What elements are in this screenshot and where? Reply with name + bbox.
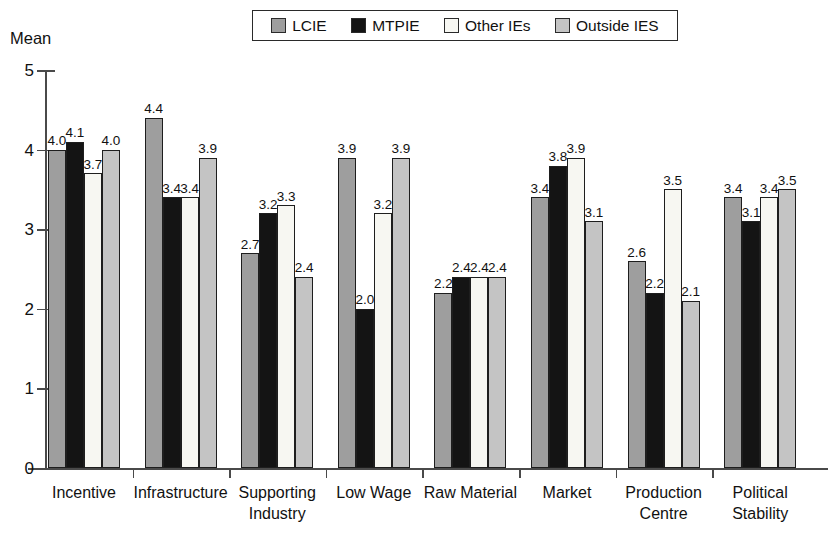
bar-value-label: 2.6 <box>627 246 646 260</box>
bar-value-label: 2.2 <box>645 277 664 291</box>
y-axis-line <box>45 70 47 469</box>
bar-group: 2.22.42.42.4 <box>434 70 506 468</box>
legend-label: MTPIE <box>372 18 419 34</box>
y-axis-tick-label: 1 <box>25 380 34 397</box>
bar: 4.1 <box>66 142 84 468</box>
legend-label: Other IEs <box>465 18 530 34</box>
bar-value-label: 3.3 <box>277 190 296 204</box>
bar: 2.4 <box>295 277 313 468</box>
chart-legend: LCIEMTPIEOther IEsOutside IES <box>252 10 678 41</box>
bar: 3.9 <box>199 158 217 468</box>
x-axis-tick <box>326 468 328 478</box>
legend-swatch-icon <box>555 18 570 33</box>
bar: 3.5 <box>664 189 682 468</box>
bar: 2.4 <box>488 277 506 468</box>
x-axis-tick <box>229 468 231 478</box>
bar: 2.2 <box>646 293 664 468</box>
x-axis-tick <box>133 468 135 478</box>
bar: 3.7 <box>84 173 102 468</box>
bar-group: 3.43.13.43.5 <box>724 70 796 468</box>
x-axis-tick <box>616 468 618 478</box>
bar-value-label: 4.0 <box>102 134 121 148</box>
bar: 3.9 <box>338 158 356 468</box>
bar-value-label: 2.4 <box>488 261 507 275</box>
x-axis-line <box>28 468 828 470</box>
bar: 2.4 <box>470 277 488 468</box>
bar: 3.2 <box>259 213 277 468</box>
bar-value-label: 2.2 <box>434 277 453 291</box>
legend-item: MTPIE <box>351 18 419 34</box>
bar-group: 3.92.03.23.9 <box>338 70 410 468</box>
bar-value-label: 2.1 <box>681 285 700 299</box>
bar-value-label: 3.5 <box>778 174 797 188</box>
bar: 3.4 <box>181 197 199 468</box>
bar: 3.4 <box>163 197 181 468</box>
legend-swatch-icon <box>444 18 459 33</box>
bar-value-label: 3.2 <box>259 198 278 212</box>
bar: 3.4 <box>724 197 742 468</box>
bar: 3.9 <box>567 158 585 468</box>
bar-value-label: 3.8 <box>549 150 568 164</box>
bar: 3.2 <box>374 213 392 468</box>
bar: 3.1 <box>585 221 603 468</box>
bar: 4.0 <box>48 150 66 468</box>
bar: 2.2 <box>434 293 452 468</box>
bar: 2.7 <box>241 253 259 468</box>
bar: 3.4 <box>531 197 549 468</box>
x-axis-tick <box>519 468 521 478</box>
bar-group: 4.04.13.74.0 <box>48 70 120 468</box>
bar-chart: LCIEMTPIEOther IEsOutside IES Mean 01234… <box>0 0 837 539</box>
bar-value-label: 3.2 <box>373 198 392 212</box>
y-axis-tick-label: 3 <box>25 221 34 238</box>
bar-value-label: 2.7 <box>241 238 260 252</box>
bar-value-label: 2.4 <box>470 261 489 275</box>
bar-value-label: 2.4 <box>295 261 314 275</box>
plot-area: 0123454.04.13.74.0Incentive4.43.43.43.9I… <box>46 70 828 468</box>
y-axis-tick <box>37 468 55 470</box>
bar-value-label: 3.4 <box>180 182 199 196</box>
x-axis-tick <box>422 468 424 478</box>
bar-group: 2.62.23.52.1 <box>628 70 700 468</box>
bar-value-label: 2.0 <box>355 293 374 307</box>
bar: 4.4 <box>145 118 163 468</box>
y-axis-tick-label: 5 <box>25 62 34 79</box>
legend-item: LCIE <box>271 18 326 34</box>
bar-value-label: 3.5 <box>663 174 682 188</box>
legend-swatch-icon <box>271 18 286 33</box>
bar-value-label: 3.4 <box>724 182 743 196</box>
bar-value-label: 2.4 <box>452 261 471 275</box>
y-axis-tick-label: 4 <box>25 141 34 158</box>
legend-item: Outside IES <box>555 18 659 34</box>
y-axis-tick-label: 2 <box>25 300 34 317</box>
bar: 3.8 <box>549 166 567 468</box>
bar-value-label: 3.7 <box>84 158 103 172</box>
legend-swatch-icon <box>351 18 366 33</box>
bar-value-label: 3.4 <box>531 182 550 196</box>
bar: 2.1 <box>682 301 700 468</box>
y-axis-title: Mean <box>10 30 51 47</box>
bar-value-label: 3.9 <box>337 142 356 156</box>
bar-group: 2.73.23.32.4 <box>241 70 313 468</box>
bar: 3.5 <box>778 189 796 468</box>
bar-value-label: 4.0 <box>48 134 67 148</box>
legend-label: LCIE <box>292 18 326 34</box>
bar-value-label: 3.1 <box>585 206 604 220</box>
bar-value-label: 4.4 <box>144 102 163 116</box>
bar: 2.4 <box>452 277 470 468</box>
bar: 3.1 <box>742 221 760 468</box>
y-axis-tick-label: 0 <box>25 460 34 477</box>
legend-label: Outside IES <box>576 18 659 34</box>
bar-value-label: 3.4 <box>760 182 779 196</box>
bar: 2.6 <box>628 261 646 468</box>
bar-group: 4.43.43.43.9 <box>145 70 217 468</box>
bar: 3.3 <box>277 205 295 468</box>
bar-value-label: 3.1 <box>742 206 761 220</box>
bar-value-label: 3.9 <box>391 142 410 156</box>
legend-item: Other IEs <box>444 18 530 34</box>
bar-value-label: 3.9 <box>198 142 217 156</box>
bar: 3.9 <box>392 158 410 468</box>
bar-value-label: 4.1 <box>66 126 85 140</box>
bar: 2.0 <box>356 309 374 468</box>
bar: 3.4 <box>760 197 778 468</box>
x-axis-tick <box>712 468 714 478</box>
